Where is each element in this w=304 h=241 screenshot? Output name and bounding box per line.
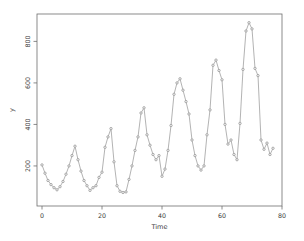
x-tick-label: 40 xyxy=(158,212,166,219)
data-point xyxy=(77,159,79,161)
data-point xyxy=(269,153,271,155)
x-tick-label: 20 xyxy=(98,212,106,219)
data-point xyxy=(230,139,232,141)
data-point xyxy=(80,170,82,172)
data-point xyxy=(209,109,211,111)
y-tick-label: 600 xyxy=(25,77,32,89)
data-point xyxy=(119,190,121,192)
data-point xyxy=(167,149,169,151)
data-point xyxy=(245,30,247,32)
data-point xyxy=(197,165,199,167)
x-axis-title: Time xyxy=(150,223,167,231)
data-point xyxy=(101,171,103,173)
data-point xyxy=(137,136,139,138)
data-point xyxy=(122,191,124,193)
data-point xyxy=(50,183,52,185)
data-point xyxy=(95,185,97,187)
data-point xyxy=(68,165,70,167)
data-point xyxy=(254,67,256,69)
data-point xyxy=(134,149,136,151)
data-point xyxy=(41,164,43,166)
data-point xyxy=(221,79,223,81)
data-point xyxy=(104,146,106,148)
data-point xyxy=(170,124,172,126)
data-point xyxy=(83,179,85,181)
y-tick-label: 800 xyxy=(25,35,32,47)
data-point xyxy=(131,165,133,167)
data-point xyxy=(74,145,76,147)
data-point xyxy=(44,172,46,174)
data-point xyxy=(146,134,148,136)
data-point xyxy=(224,123,226,125)
data-point xyxy=(62,180,64,182)
y-tick-label: 400 xyxy=(25,118,32,130)
data-point xyxy=(110,127,112,129)
data-point xyxy=(86,185,88,187)
data-point xyxy=(239,122,241,124)
data-point xyxy=(161,175,163,177)
data-point xyxy=(263,148,265,150)
data-point xyxy=(251,28,253,30)
data-point xyxy=(56,189,58,191)
data-point xyxy=(188,113,190,115)
data-point xyxy=(212,64,214,66)
data-point xyxy=(140,112,142,114)
data-point xyxy=(173,93,175,95)
data-point xyxy=(71,154,73,156)
r-plot-window: 020406080200400600800Timey xyxy=(0,0,304,241)
data-point xyxy=(98,176,100,178)
data-point xyxy=(248,22,250,24)
data-point xyxy=(158,154,160,156)
data-point xyxy=(218,69,220,71)
data-point xyxy=(92,187,94,189)
data-point xyxy=(185,100,187,102)
x-tick-label: 0 xyxy=(40,212,44,219)
data-point xyxy=(152,153,154,155)
data-point xyxy=(215,59,217,61)
data-point xyxy=(227,143,229,145)
data-point xyxy=(143,107,145,109)
data-point xyxy=(65,173,67,175)
time-series-plot: 020406080200400600800Timey xyxy=(0,0,304,241)
data-point xyxy=(164,168,166,170)
data-point xyxy=(155,159,157,161)
data-point xyxy=(236,159,238,161)
data-point xyxy=(206,134,208,136)
data-point xyxy=(53,187,55,189)
data-point xyxy=(200,169,202,171)
data-point xyxy=(203,165,205,167)
data-point xyxy=(233,153,235,155)
data-point xyxy=(89,189,91,191)
x-tick-label: 80 xyxy=(278,212,286,219)
y-tick-label: 200 xyxy=(25,160,32,172)
data-point xyxy=(128,178,130,180)
data-point xyxy=(107,136,109,138)
x-tick-label: 60 xyxy=(218,212,226,219)
data-point xyxy=(176,82,178,84)
data-point xyxy=(149,144,151,146)
y-axis-title: y xyxy=(8,108,16,112)
data-point xyxy=(272,147,274,149)
data-point xyxy=(242,68,244,70)
data-point xyxy=(113,161,115,163)
data-point xyxy=(59,186,61,188)
data-point xyxy=(179,78,181,80)
series-line xyxy=(42,23,273,193)
data-point xyxy=(191,139,193,141)
data-point xyxy=(260,139,262,141)
data-point xyxy=(257,74,259,76)
data-point xyxy=(125,191,127,193)
data-point xyxy=(47,179,49,181)
data-point xyxy=(266,142,268,144)
data-point xyxy=(116,185,118,187)
data-point xyxy=(182,89,184,91)
data-point xyxy=(194,154,196,156)
